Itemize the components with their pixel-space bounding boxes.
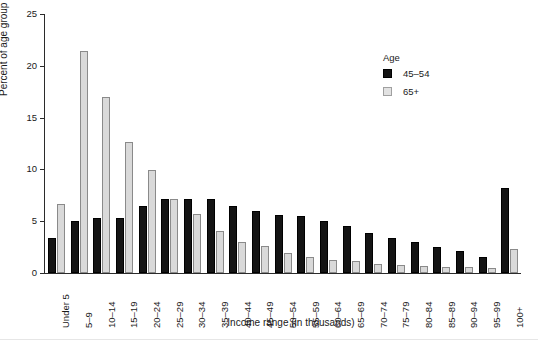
y-tick-mark: [40, 118, 44, 119]
bar[interactable]: [284, 253, 292, 273]
bar[interactable]: [102, 97, 110, 273]
bar[interactable]: [170, 199, 178, 273]
bar[interactable]: [456, 251, 464, 273]
bar-group: [48, 14, 65, 273]
bar[interactable]: [125, 142, 133, 273]
bar[interactable]: [148, 170, 156, 273]
bar[interactable]: [238, 242, 246, 273]
bar-group: [207, 14, 224, 273]
bar[interactable]: [411, 242, 419, 273]
bar[interactable]: [275, 215, 283, 273]
y-tick-mark: [40, 221, 44, 222]
bar[interactable]: [297, 216, 305, 273]
bar[interactable]: [479, 257, 487, 273]
y-tick-mark: [40, 66, 44, 67]
bar-group: [93, 14, 110, 273]
legend-entry[interactable]: 65+: [383, 86, 429, 97]
y-tick-label: 20: [26, 59, 37, 72]
bar[interactable]: [388, 238, 396, 273]
bar[interactable]: [465, 267, 473, 273]
bar-chart-figure: 0510152025 Percent of age group Under 55…: [0, 0, 538, 348]
bar-groups: [45, 14, 521, 273]
legend-label: 65+: [403, 86, 419, 97]
bar[interactable]: [216, 231, 224, 273]
bar[interactable]: [184, 199, 192, 273]
bar[interactable]: [80, 51, 88, 273]
legend-swatch: [383, 87, 392, 96]
footer-divider: [0, 339, 538, 340]
bar[interactable]: [57, 204, 65, 273]
bar[interactable]: [420, 266, 428, 273]
y-tick-label: 15: [26, 111, 37, 124]
bar-group: [71, 14, 88, 273]
bar-group: [320, 14, 337, 273]
bar[interactable]: [329, 260, 337, 273]
y-axis-title: Percent of age group: [0, 3, 9, 96]
bar[interactable]: [510, 249, 518, 273]
bar[interactable]: [93, 218, 101, 273]
bar[interactable]: [193, 214, 201, 273]
bar[interactable]: [433, 247, 441, 273]
bar[interactable]: [442, 267, 450, 273]
bar-group: [252, 14, 269, 273]
bar[interactable]: [48, 238, 56, 273]
bar[interactable]: [252, 211, 260, 273]
y-tick-mark: [40, 169, 44, 170]
bar-group: [116, 14, 133, 273]
bar[interactable]: [352, 261, 360, 273]
bar[interactable]: [501, 188, 509, 273]
bar[interactable]: [374, 264, 382, 273]
bar[interactable]: [71, 221, 79, 273]
bar-group: [139, 14, 156, 273]
bar-group: [456, 14, 473, 273]
legend-entries: 45–5465+: [383, 68, 429, 97]
bar-group: [365, 14, 382, 273]
bar[interactable]: [488, 268, 496, 273]
bar-group: [229, 14, 246, 273]
bar-group: [343, 14, 360, 273]
bar[interactable]: [365, 233, 373, 273]
bar[interactable]: [229, 206, 237, 273]
bar[interactable]: [343, 226, 351, 273]
x-axis-line: [44, 273, 521, 274]
legend-swatch: [383, 69, 392, 78]
bar[interactable]: [116, 218, 124, 273]
y-tick-mark: [40, 273, 44, 274]
bar-group: [184, 14, 201, 273]
y-tick-label: 5: [32, 214, 37, 227]
y-tick-label: 25: [26, 7, 37, 20]
legend-entry[interactable]: 45–54: [383, 68, 429, 79]
y-tick-label: 10: [26, 162, 37, 175]
bar-group: [161, 14, 178, 273]
legend-title: Age: [383, 52, 429, 63]
bar[interactable]: [139, 206, 147, 273]
bar-group: [433, 14, 450, 273]
bar[interactable]: [397, 265, 405, 273]
y-tick-label: 0: [32, 266, 37, 279]
bar-group: [275, 14, 292, 273]
bar[interactable]: [320, 221, 328, 273]
legend-label: 45–54: [403, 68, 429, 79]
bar-group: [297, 14, 314, 273]
bar-group: [479, 14, 496, 273]
bar[interactable]: [306, 257, 314, 273]
bar[interactable]: [207, 199, 215, 273]
bar-group: [501, 14, 518, 273]
chart-legend: Age 45–5465+: [383, 52, 429, 104]
bar[interactable]: [161, 199, 169, 273]
x-axis-title: Income range (in thousands): [0, 317, 538, 328]
bar[interactable]: [261, 246, 269, 273]
y-tick-mark: [40, 14, 44, 15]
